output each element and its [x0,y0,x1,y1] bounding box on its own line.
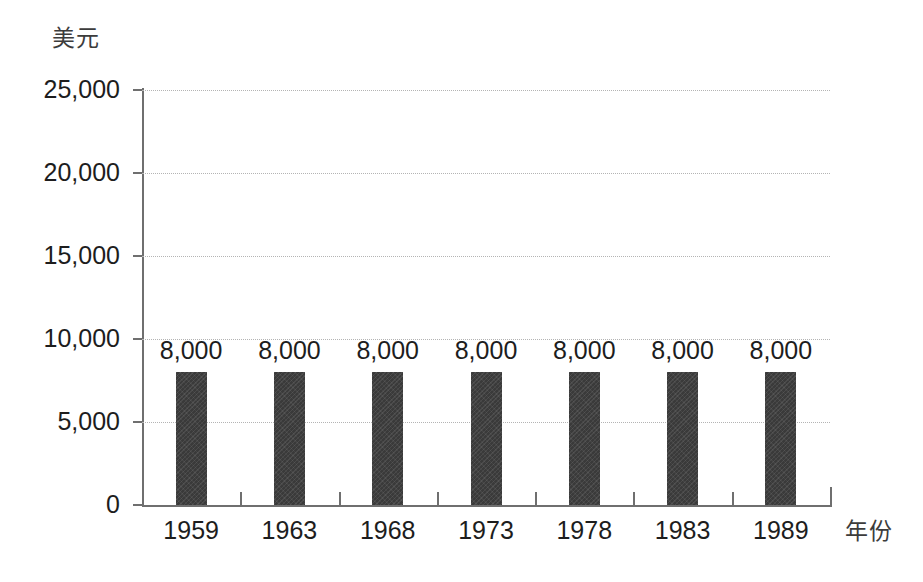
x-axis-line [142,505,832,507]
bar [176,372,207,505]
x-axis-title: 年份 [845,516,893,546]
y-axis-tick-label: 15,000 [0,243,120,268]
x-axis-tick-label: 1989 [721,515,841,545]
y-axis-title: 美元 [52,24,100,52]
x-axis-tick [535,492,537,505]
bar [471,372,502,505]
bar-chart: 美元 8,0008,0008,0008,0008,0008,0008,000 年… [0,0,923,582]
bar [372,372,403,505]
bar [667,372,698,505]
bar [569,372,600,505]
x-axis-tick [633,492,635,505]
y-axis-tick [133,504,142,506]
x-axis-tick [437,492,439,505]
x-axis-end-cap [830,487,832,507]
y-axis-tick [133,89,142,91]
y-axis-tick [133,172,142,174]
y-axis-tick-label: 25,000 [0,77,120,102]
x-axis-tick [240,492,242,505]
y-axis-tick-label: 10,000 [0,326,120,351]
bar-value-label: 8,000 [711,338,851,363]
gridline [142,256,830,257]
gridline [142,173,830,174]
y-axis-tick-label: 5,000 [0,409,120,434]
y-axis-tick [133,421,142,423]
y-axis-tick [133,255,142,257]
y-axis-tick-label: 20,000 [0,160,120,185]
plot-area: 8,0008,0008,0008,0008,0008,0008,000 [142,90,830,505]
bar [274,372,305,505]
bar [765,372,796,505]
y-axis-tick-label: 0 [0,492,120,517]
x-axis-tick [339,492,341,505]
x-axis-tick [732,492,734,505]
gridline [142,90,830,91]
